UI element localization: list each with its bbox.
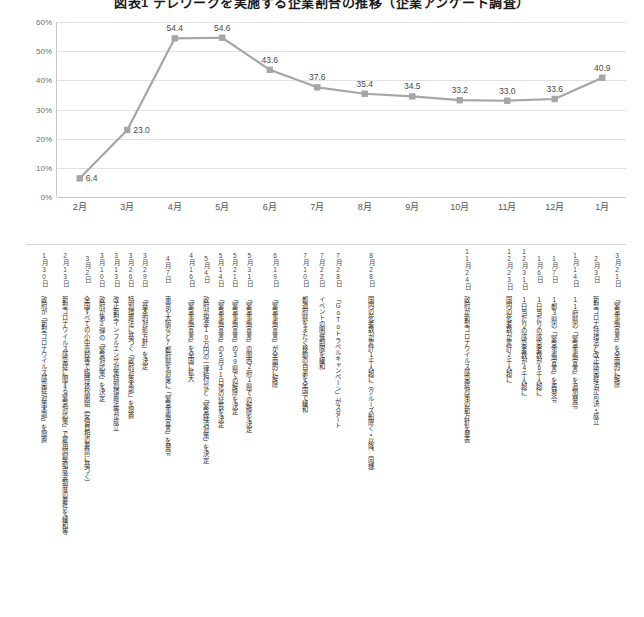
x-axis-tick-label: 8月 <box>358 200 372 213</box>
y-axis: 0%10%20%30%40%50%60% <box>26 22 54 197</box>
y-axis-tick-label: 50% <box>36 47 52 56</box>
timeline-event-note: 新型コロナ特措法と改正感染症法が可決・成立 <box>592 296 600 424</box>
timeline-event: 5月21日「緊急事態宣言」の39県での解除を決定 <box>229 248 240 414</box>
timeline-event-note: 政府が新型コロナウイルス感染症対策の新方針を発表 <box>463 296 471 442</box>
data-point-marker <box>552 96 558 102</box>
timeline-event-date: 11月24日 <box>463 248 470 290</box>
timeline-event: 8月28日国内の死者数が累計1千人超に（クルーズ船除く・以降、同様） <box>366 248 377 474</box>
timeline-event: 1月30日政府が「新型コロナウイルス感染症対策本部」を設置 <box>39 248 50 442</box>
x-axis: 2月3月4月5月6月7月8月9月10月11月12月1月 <box>56 200 626 216</box>
timeline-event-date: 1月30日 <box>40 248 47 290</box>
data-point-marker <box>124 127 130 133</box>
timeline-event: 3月13日改正新型インフルエンザ対策特別措置法等が成立 <box>111 248 122 430</box>
timeline-event: 3月26日特別措置法に基づく「政府対策本部」を設置 <box>125 248 136 418</box>
x-axis-tick-label: 1月 <box>595 200 609 213</box>
timeline-event: 7月22日イベントの開催制限を緩和 <box>316 248 327 369</box>
timeline-event: 2月3日新型コロナ特措法と改正感染症法が可決・成立 <box>591 248 602 424</box>
x-axis-tick-label: 6月 <box>263 200 277 213</box>
timeline-event: 5月14日「緊急事態宣言」の5月31日迄の延長を決定 <box>215 248 226 427</box>
timeline-event-note: 都道府県をまたぐ移動の自粛を全国で緩和 <box>301 296 309 412</box>
timeline-event: 6月19日「緊急事態宣言」が全面的に解除 <box>270 248 281 388</box>
timeline-event-date: 5月21日 <box>231 248 238 290</box>
timeline-event-note: 全国すべての小中高校等で臨時休校開始（安倍首相の要請に基づく） <box>83 296 91 485</box>
chart-series-layer <box>56 22 626 197</box>
timeline-event: 5月4日政府が現金10万円の一律給付など「緊急経済対策」を決定 <box>201 248 212 463</box>
timeline-event-date: 1月7日 <box>550 248 557 290</box>
timeline-event: 4月7日東京や大阪など7都府県を対象に「緊急事態宣言」を発令 <box>162 248 173 456</box>
x-axis-tick-label: 10月 <box>450 200 469 213</box>
y-axis-tick-label: 20% <box>36 134 52 143</box>
timeline-event: 11月24日政府が新型コロナウイルス感染症対策の新方針を発表 <box>462 248 473 442</box>
data-point-marker <box>267 67 273 73</box>
data-point-marker <box>362 91 368 97</box>
series-line <box>80 38 603 179</box>
timeline-event-note: 「緊急事態宣言」が全面的に解除 <box>271 296 279 388</box>
timeline-event-note: 東京や大阪など7都府県を対象に「緊急事態宣言」を発令 <box>164 296 172 456</box>
timeline-event-note: 改正新型インフルエンザ対策特別措置法等が成立 <box>112 296 120 430</box>
timeline-event: 3月2日全国すべての小中高校等で臨時休校開始（安倍首相の要請に基づく） <box>82 248 93 485</box>
timeline-event-date: 8月28日 <box>367 248 374 290</box>
timeline-event-date: 1月6日 <box>535 248 542 290</box>
y-axis-tick-label: 0% <box>40 193 52 202</box>
timeline-event-date: 5月4日 <box>202 248 209 290</box>
timeline-event-note: 「GoToトラベルキャンペーン」がスタート <box>334 296 342 428</box>
timeline-event-date: 12月31日 <box>520 248 527 290</box>
timeline-event-date: 6月19日 <box>271 248 278 290</box>
line-chart: 0%10%20%30%40%50%60% 6.423.054.454.643.6… <box>26 22 626 222</box>
timeline-divider <box>26 244 626 245</box>
timeline-event-note: 「基本的対処方針」を決定 <box>141 296 149 369</box>
timeline-event-date: 5月31日 <box>246 248 253 290</box>
data-point-marker <box>219 35 225 41</box>
chart-page: 図表1 テレワークを実施する企業割合の推移（企業アンケート調査） 0%10%20… <box>0 0 644 617</box>
timeline-event-note: 政府が現金10万円の一律給付など「緊急経済対策」を決定 <box>202 296 210 463</box>
timeline-event-note: 特別措置法に基づく「政府対策本部」を設置 <box>127 296 135 418</box>
timeline-event-date: 5月14日 <box>217 248 224 290</box>
data-point-marker <box>457 97 463 103</box>
timeline-event: 12月23日国内の死者数が累計2千人超に <box>504 248 515 382</box>
timeline-event-note: 国内の死者数が累計1千人超に（クルーズ船除く・以降、同様） <box>367 296 375 474</box>
x-axis-tick-label: 4月 <box>168 200 182 213</box>
x-axis-tick-label: 9月 <box>405 200 419 213</box>
timeline-event: 2月13日新型コロナウイルス感染症に関する緊急対応策」で雇用調整助成金制度の要件… <box>60 248 71 534</box>
timeline-event-note: 「緊急事態宣言」の39県での解除を決定 <box>231 296 239 414</box>
timeline-event-note: 「緊急事態宣言」を全面的に解除 <box>613 296 621 388</box>
timeline-event: 7月10日都道府県をまたぐ移動の自粛を全国で緩和 <box>300 248 311 412</box>
timeline-event: 4月16日「緊急事態宣言」を全国に拡大 <box>186 248 197 381</box>
data-point-marker <box>172 35 178 41</box>
timeline-event-date: 3月13日 <box>112 248 119 290</box>
x-axis-tick-label: 12月 <box>545 200 564 213</box>
x-axis-tick-label: 5月 <box>215 200 229 213</box>
y-axis-tick-label: 60% <box>36 18 52 27</box>
x-axis-tick-label: 3月 <box>120 200 134 213</box>
timeline-event-date: 3月21日 <box>613 248 620 290</box>
timeline-event: 1月6日1日当たりの感染者数が6千人超に <box>534 248 545 396</box>
timeline-event: 7月28日「GoToトラベルキャンペーン」がスタート <box>333 248 344 428</box>
timeline-event: 3月10日政府が第2弾の「緊急対応策」を決定 <box>96 248 107 401</box>
timeline-event-date: 7月10日 <box>301 248 308 290</box>
timeline-event: 1月7日1都3県の「緊急事態宣言」を再発令 <box>549 248 560 402</box>
timeline-event-date: 7月22日 <box>318 248 325 290</box>
timeline-event-date: 3月26日 <box>127 248 134 290</box>
timeline-event-note: 1日当たりの感染者数が4千人超に <box>520 296 528 396</box>
timeline-event-note: 「緊急事態宣言」の5月31日迄の延長を決定 <box>217 296 225 427</box>
timeline-event-note: イベントの開催制限を緩和 <box>318 296 326 369</box>
timeline-event-date: 3月10日 <box>98 248 105 290</box>
x-axis-tick-label: 11月 <box>498 200 516 213</box>
timeline-event-date: 12月23日 <box>505 248 512 290</box>
y-axis-tick-label: 40% <box>36 76 52 85</box>
timeline-event-note: 1都3県の「緊急事態宣言」を再発令 <box>550 296 558 402</box>
timeline-event: 3月29日「基本的対処方針」を決定 <box>139 248 150 369</box>
timeline-event-date: 2月3日 <box>592 248 599 290</box>
y-axis-tick-label: 10% <box>36 163 52 172</box>
timeline-event-note: 1日当たりの感染者数が6千人超に <box>535 296 543 396</box>
timeline-event-note: 国内の死者数が累計2千人超に <box>505 296 513 382</box>
timeline-event: 1月14日11府県の「緊急事態宣言」を追加発令 <box>570 248 581 408</box>
timeline-event: 5月31日「緊急事態宣言」の関西2府1県での解除を決定 <box>244 248 255 432</box>
event-timeline: 1月30日政府が「新型コロナウイルス感染症対策本部」を設置2月13日新型コロナウ… <box>26 244 626 614</box>
y-axis-tick-label: 30% <box>36 105 52 114</box>
timeline-event-date: 4月7日 <box>164 248 171 290</box>
page-title: 図表1 テレワークを実施する企業割合の推移（企業アンケート調査） <box>0 0 644 11</box>
timeline-event-note: 11府県の「緊急事態宣言」を追加発令 <box>571 296 579 408</box>
timeline-event: 12月31日1日当たりの感染者数が4千人超に <box>519 248 530 396</box>
timeline-event-date: 3月2日 <box>84 248 91 290</box>
